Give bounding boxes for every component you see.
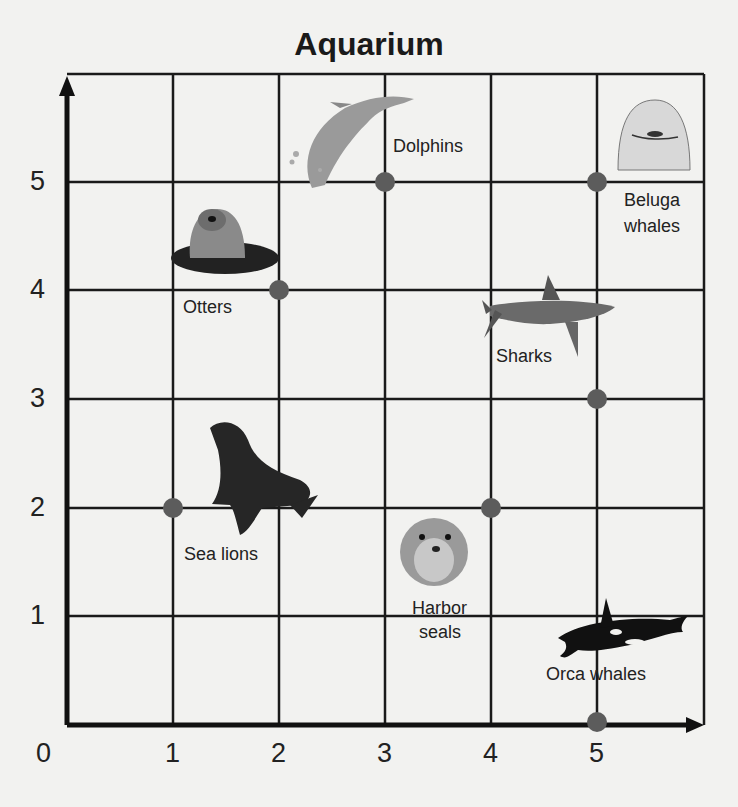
- y-axis-arrow-icon: [59, 76, 75, 96]
- point-sea-lions: [163, 498, 183, 518]
- label-sea-lions: Sea lions: [184, 544, 258, 565]
- label-harbor-line2: seals: [419, 622, 461, 643]
- otter-icon: [171, 209, 279, 274]
- x-tick-2: 2: [271, 738, 286, 769]
- label-beluga-line2: whales: [624, 216, 680, 237]
- label-beluga-line1: Beluga: [624, 190, 680, 211]
- orca-icon: [558, 598, 688, 657]
- point-orca-whales: [587, 712, 607, 732]
- label-otters: Otters: [183, 297, 232, 318]
- x-tick-3: 3: [377, 738, 392, 769]
- x-tick-1: 1: [165, 738, 180, 769]
- point-otters: [269, 280, 289, 300]
- y-tick-2: 2: [30, 492, 45, 523]
- x-axis-arrow-icon: [686, 717, 704, 733]
- point-harbor-seals: [481, 498, 501, 518]
- aquarium-chart: Aquarium: [0, 0, 738, 807]
- point-beluga-whales: [587, 172, 607, 192]
- shark-icon: [482, 275, 615, 357]
- label-sharks: Sharks: [496, 346, 552, 367]
- y-tick-4: 4: [30, 274, 45, 305]
- y-tick-1: 1: [30, 600, 45, 631]
- y-tick-5: 5: [30, 166, 45, 197]
- x-tick-5: 5: [589, 738, 604, 769]
- label-harbor-line1: Harbor: [412, 598, 467, 619]
- point-sharks: [587, 389, 607, 409]
- grid-plot: [0, 0, 738, 807]
- x-tick-0: 0: [36, 738, 51, 769]
- sea-lion-icon: [210, 422, 318, 535]
- label-orca-whales: Orca whales: [546, 664, 646, 685]
- point-dolphins: [375, 172, 395, 192]
- label-dolphins: Dolphins: [393, 136, 463, 157]
- y-tick-3: 3: [30, 383, 45, 414]
- beluga-whale-icon: [618, 100, 690, 170]
- harbor-seal-icon: [400, 518, 468, 586]
- x-tick-4: 4: [483, 738, 498, 769]
